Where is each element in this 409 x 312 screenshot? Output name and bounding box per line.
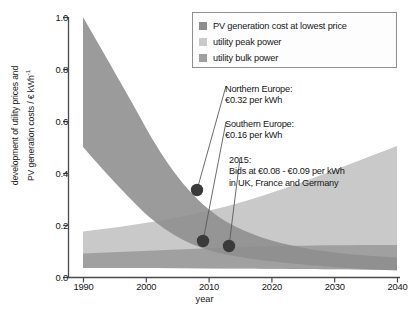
y-tick-label-0.6: 0.6 <box>28 116 68 127</box>
chart-container: development of utility prices and PV gen… <box>0 0 409 312</box>
x-tick-label-2020: 2020 <box>245 281 299 292</box>
annotation-southern-line2: €0.16 per kWh <box>225 130 294 141</box>
x-tick-label-2000: 2000 <box>119 281 173 292</box>
y-tick-label-1.0: 1.0 <box>28 12 68 23</box>
x-tick-label-2040: 2040 <box>371 281 409 292</box>
y-tick-label-0.8: 0.8 <box>28 64 68 75</box>
x-tick-label-2010: 2010 <box>182 281 236 292</box>
y-tick-label-0.4: 0.4 <box>28 168 68 179</box>
legend-label-pv: PV generation cost at lowest price <box>213 21 347 31</box>
leader-line-northern <box>197 86 226 190</box>
legend: PV generation cost at lowest price utili… <box>192 12 397 68</box>
x-tick-label-2030: 2030 <box>308 281 362 292</box>
legend-swatch-icon-peak <box>199 38 207 46</box>
annotation-bids-line1: 2015: <box>229 155 345 166</box>
annotation-2015-bids: 2015: Bids at €0.08 - €0.09 per kWh in U… <box>229 155 345 189</box>
y-axis-title-line1: development of utility prices and <box>10 16 22 236</box>
marker-southern-europe[interactable] <box>197 235 209 247</box>
legend-label-bulk: utility bulk power <box>213 53 278 63</box>
y-axis-title-line2-text: PV generation costs / € kWh <box>26 75 36 181</box>
x-axis-title: year <box>0 294 409 304</box>
annotation-northern-europe: Northern Europe: €0.32 per kWh <box>225 84 292 107</box>
legend-item-utility-bulk-power[interactable]: utility bulk power <box>199 50 396 65</box>
legend-swatch-icon-bulk <box>199 54 207 62</box>
legend-item-pv-generation-cost[interactable]: PV generation cost at lowest price <box>199 18 396 33</box>
y-tick-label-0.2: 0.2 <box>28 220 68 231</box>
legend-label-peak: utility peak power <box>213 37 281 47</box>
x-tick-label-1990: 1990 <box>57 281 111 292</box>
marker-northern-europe[interactable] <box>191 184 203 196</box>
legend-swatch-icon-pv <box>199 22 207 30</box>
y-axis-ticks <box>63 18 68 278</box>
annotation-northern-line2: €0.32 per kWh <box>225 95 292 106</box>
legend-item-utility-peak-power[interactable]: utility peak power <box>199 34 396 49</box>
annotation-bids-line2: Bids at €0.08 - €0.09 per kWh <box>229 166 345 177</box>
annotation-southern-line1: Southern Europe: <box>225 119 294 130</box>
marker-2015-bids[interactable] <box>223 240 235 252</box>
annotation-southern-europe: Southern Europe: €0.16 per kWh <box>225 119 294 142</box>
annotation-bids-line3: in UK, France and Germany <box>229 178 345 189</box>
annotation-northern-line1: Northern Europe: <box>225 84 292 95</box>
